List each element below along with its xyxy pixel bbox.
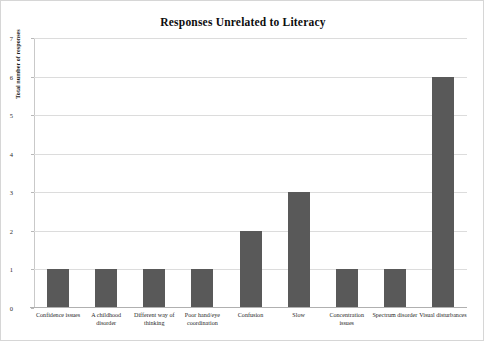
x-tick-label: A childhood disorder	[82, 312, 130, 327]
bar[interactable]	[432, 77, 454, 308]
chart-title: Responses Unrelated to Literacy	[1, 16, 484, 28]
bar[interactable]	[191, 269, 213, 308]
y-tick-mark	[31, 231, 34, 232]
y-axis-title: Total number of responses	[14, 9, 21, 119]
x-tick-label: Poor hand/eye coordination	[178, 312, 226, 327]
x-tick-label: Different way of thinking	[130, 312, 178, 327]
y-tick-label: 2	[0, 227, 13, 234]
x-tick-label: Confidence issues	[34, 312, 82, 320]
gridline	[34, 115, 467, 116]
gridline	[34, 77, 467, 78]
y-tick-mark	[31, 38, 34, 39]
y-tick-mark	[31, 115, 34, 116]
bar[interactable]	[384, 269, 406, 308]
x-tick-label: Confusion	[226, 312, 274, 320]
bar[interactable]	[143, 269, 165, 308]
y-tick-label: 3	[0, 189, 13, 196]
plot-area	[34, 38, 467, 308]
bar[interactable]	[95, 269, 117, 308]
y-tick-mark	[31, 269, 34, 270]
y-tick-label: 1	[0, 266, 13, 273]
gridline	[34, 192, 467, 193]
y-tick-mark	[31, 154, 34, 155]
y-tick-label: 5	[0, 112, 13, 119]
x-tick-label: Visual disturbances	[419, 312, 467, 320]
bar[interactable]	[240, 231, 262, 308]
x-axis-line	[30, 307, 467, 308]
x-tick-label: Slow	[275, 312, 323, 320]
y-tick-label: 4	[0, 150, 13, 157]
bar[interactable]	[336, 269, 358, 308]
chart-figure: Responses Unrelated to Literacy Total nu…	[0, 0, 484, 341]
x-tick-label: Spectrum disorder	[371, 312, 419, 320]
x-tick-label: Concentration issues	[323, 312, 371, 327]
bar[interactable]	[288, 192, 310, 308]
y-tick-mark	[31, 192, 34, 193]
y-tick-mark	[31, 77, 34, 78]
gridline	[34, 154, 467, 155]
y-tick-label: 7	[0, 35, 13, 42]
bar[interactable]	[47, 269, 69, 308]
y-tick-label: 6	[0, 73, 13, 80]
gridline	[34, 38, 467, 39]
y-tick-mark	[31, 308, 34, 309]
y-tick-label: 0	[0, 305, 13, 312]
